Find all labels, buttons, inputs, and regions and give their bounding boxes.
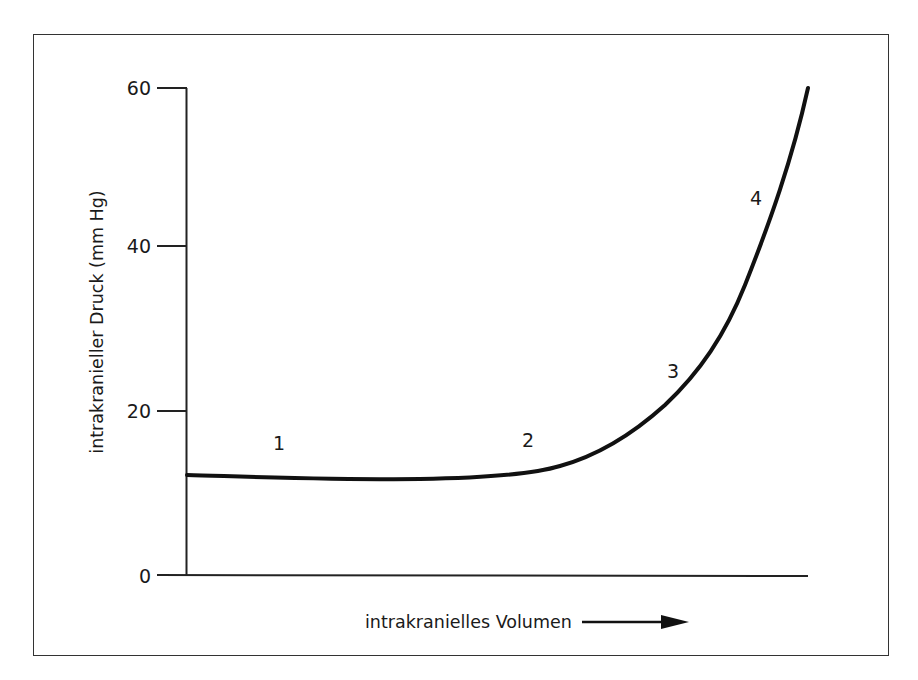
region-label-4: 4 bbox=[750, 187, 762, 209]
region-label-1: 1 bbox=[273, 432, 285, 454]
x-axis-line bbox=[157, 575, 808, 576]
y-tick-label-0: 0 bbox=[139, 565, 151, 587]
right-arrow-icon bbox=[582, 615, 689, 629]
pressure-volume-curve bbox=[187, 88, 808, 479]
pressure-volume-chart: 60 40 20 0 intrakranieller Druck (mm Hg)… bbox=[0, 0, 918, 680]
region-label-2: 2 bbox=[522, 429, 534, 451]
y-tick-label-20: 20 bbox=[127, 400, 151, 422]
y-axis-title: intrakranieller Druck (mm Hg) bbox=[87, 190, 107, 453]
y-tick-label-60: 60 bbox=[127, 77, 151, 99]
y-tick-label-40: 40 bbox=[127, 235, 151, 257]
region-label-3: 3 bbox=[667, 360, 679, 382]
x-axis-title: intrakranielles Volumen bbox=[365, 612, 572, 632]
